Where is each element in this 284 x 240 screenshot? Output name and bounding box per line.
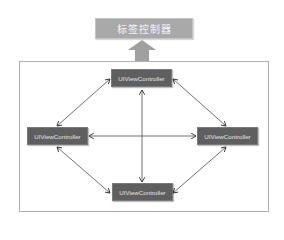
edge-top-right — [173, 79, 226, 126]
view-controller-left: UIViewController — [27, 127, 88, 145]
view-controller-bottom: UIViewController — [112, 183, 173, 201]
edge-top-left — [57, 79, 110, 126]
edge-right-bottom — [173, 147, 226, 193]
up-arrow-icon — [128, 40, 156, 61]
view-controller-right: UIViewController — [197, 127, 258, 145]
edge-left-bottom — [57, 147, 110, 193]
view-controller-top: UIViewController — [111, 69, 172, 87]
